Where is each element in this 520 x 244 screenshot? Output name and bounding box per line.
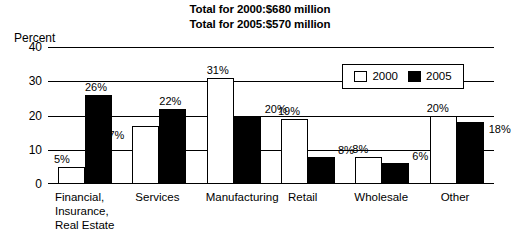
bar-chart-figure: Total for 2000:$680 million Total for 20… (0, 0, 520, 244)
gridline-20 (48, 116, 494, 117)
bar-value-label-2000-4: 8% (352, 144, 368, 155)
x-axis-category-label-0: Financial, Insurance, Real Estate (55, 190, 114, 232)
bar-2000-1 (132, 126, 159, 184)
y-axis-tick-10: 10 (12, 144, 42, 156)
bar-value-label-2000-0: 5% (54, 154, 70, 165)
x-axis-category-label-4: Wholesale (354, 190, 408, 204)
bar-value-label-2000-5: 20% (427, 103, 449, 114)
legend-entry-2000: 2000 (354, 71, 398, 83)
bar-value-label-2005-0: 26% (85, 82, 107, 93)
bar-value-label-2005-3: 8% (338, 145, 354, 156)
chart-legend: 2000 2005 (342, 64, 464, 89)
legend-label-2000: 2000 (372, 71, 398, 83)
bar-2000-5 (430, 116, 457, 185)
bar-value-label-2000-2: 31% (207, 65, 229, 76)
bar-value-label-2005-4: 6% (412, 151, 428, 162)
y-axis-tick-30: 30 (12, 75, 42, 87)
y-axis-tick-20: 20 (12, 110, 42, 122)
bar-2005-0 (85, 95, 112, 184)
black-square-icon (408, 71, 421, 82)
chart-title-line-1: Total for 2000:$680 million (0, 2, 520, 17)
legend-label-2005: 2005 (426, 71, 452, 83)
legend-entry-2005: 2005 (408, 71, 452, 83)
x-axis-category-label-1: Services (135, 190, 179, 204)
bar-2000-0 (58, 167, 85, 184)
x-axis-category-label-5: Other (441, 190, 470, 204)
bar-2000-3 (281, 119, 308, 184)
bar-2000-2 (207, 78, 234, 184)
bar-2005-4 (382, 163, 409, 184)
gridline-40 (48, 47, 494, 48)
x-axis-baseline (48, 183, 494, 184)
bar-value-label-2005-2: 20% (265, 104, 287, 115)
chart-title-block: Total for 2000:$680 million Total for 20… (0, 2, 520, 32)
bar-2005-3 (308, 157, 335, 184)
bar-value-label-2005-1: 22% (159, 96, 181, 107)
y-axis-tick-0: 0 (12, 178, 42, 190)
chart-title-line-2: Total for 2005:$570 million (0, 17, 520, 32)
y-axis-tick-40: 40 (12, 41, 42, 53)
white-square-icon (354, 71, 367, 82)
x-axis-category-label-2: Manufacturing (206, 190, 279, 204)
bar-2005-2 (234, 116, 261, 185)
bar-value-label-2005-5: 18% (489, 124, 511, 135)
bar-2005-5 (457, 122, 484, 184)
bar-2005-1 (159, 109, 186, 184)
x-axis-category-label-3: Retail (288, 190, 317, 204)
bar-2000-4 (355, 157, 382, 184)
